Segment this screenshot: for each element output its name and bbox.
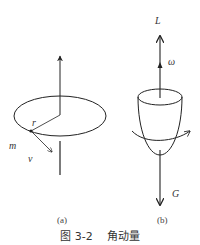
label-v: v [28,153,33,164]
label-L: L [154,15,161,26]
angular-momentum-figure: r m v (a) L ω G (b) 图 3-2 角动量 [0,0,200,245]
panel-label-a: (a) [57,215,67,225]
panel-label-b: (b) [157,215,168,225]
label-r: r [32,117,36,128]
label-omega: ω [168,56,175,67]
figure-caption: 图 3-2 角动量 [60,230,139,243]
cup-body [138,97,182,155]
label-m: m [9,140,16,151]
panel-a: r m v (a) [9,56,106,225]
rotation-arrow [132,131,190,140]
label-G: G [172,188,179,199]
panel-b: L ω G (b) [132,15,190,225]
omega-arrowhead [158,62,163,68]
